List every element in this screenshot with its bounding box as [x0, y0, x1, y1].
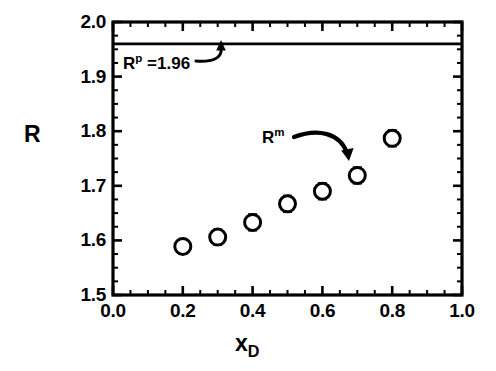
marker-open-circle — [314, 183, 330, 199]
y-tick-label-1.5: 1.5 — [60, 284, 106, 306]
x-axis-title-subscript: D — [248, 342, 260, 360]
marker-open-circle — [245, 214, 261, 230]
rp-annotation-label: Rp =1.96 — [123, 52, 190, 74]
rm-annotation-main: R — [262, 128, 274, 147]
data-point — [175, 238, 191, 254]
rm-annotation-label: Rm — [262, 126, 285, 148]
rm-annotation-superscript: m — [274, 126, 284, 138]
y-tick-label-2.0: 2.0 — [60, 11, 106, 33]
x-tick-label-0.0: 0.0 — [100, 300, 126, 322]
x-axis-title: xD — [235, 330, 259, 361]
data-point — [280, 196, 296, 212]
y-tick-label-1.8: 1.8 — [60, 120, 106, 142]
y-tick-label-1.9: 1.9 — [60, 66, 106, 88]
x-tick-label-0.8: 0.8 — [379, 300, 405, 322]
x-tick-label-0.4: 0.4 — [240, 300, 266, 322]
rm-arrow-icon — [294, 133, 354, 161]
x-tick-label-0.6: 0.6 — [310, 300, 336, 322]
y-axis-title: R — [24, 121, 41, 148]
data-point — [245, 214, 261, 230]
x-axis-title-main: x — [235, 330, 248, 356]
data-point — [384, 130, 400, 146]
y-tick-label-1.7: 1.7 — [60, 175, 106, 197]
rp-annotation-value: =1.96 — [142, 54, 190, 73]
marker-open-circle — [210, 229, 226, 245]
marker-open-circle — [175, 238, 191, 254]
x-tick-label-0.2: 0.2 — [170, 300, 196, 322]
data-point — [210, 229, 226, 245]
marker-open-circle — [349, 167, 365, 183]
data-point — [349, 167, 365, 183]
data-point — [314, 183, 330, 199]
x-tick-label-1.0: 1.0 — [449, 300, 475, 322]
y-tick-label-1.6: 1.6 — [60, 229, 106, 251]
chart-figure: 2.0 1.9 1.8 1.7 1.6 1.5 0.0 0.2 0.4 0.6 … — [0, 0, 496, 371]
rp-annotation-main: R — [123, 54, 135, 73]
marker-open-circle — [280, 196, 296, 212]
marker-open-circle — [384, 130, 400, 146]
data-series-rm — [175, 130, 400, 254]
